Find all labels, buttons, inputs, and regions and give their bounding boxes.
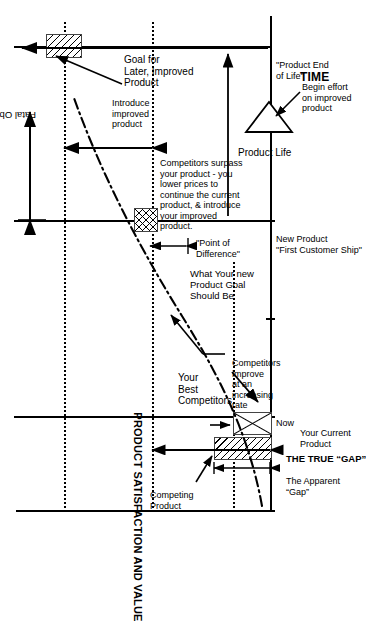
leader-begin-effort xyxy=(276,92,300,116)
leader-competitors-improve xyxy=(171,315,203,354)
label-competing-product: Competing Product xyxy=(150,490,194,511)
label-goal-for-later-improved-product: Goal for Later, Improved Product xyxy=(124,54,193,89)
label-what-your-new-product-goal: What Your new Product Goal Should Be xyxy=(190,268,254,301)
label-the-true-gap: THE TRUE “GAP” xyxy=(286,454,366,465)
label-competitors-surpass: Competitors surpass your product - you l… xyxy=(160,158,243,232)
label-fatal-obsolescence-gap: Fatal Obsolescence Gap xyxy=(0,110,36,121)
leader-competing-product xyxy=(196,456,212,482)
label-your-best-competitors: Your Best Competitors xyxy=(178,372,232,407)
label-product-life: Product Life xyxy=(238,148,291,159)
label-introduce-improved-product: Introduce improved product xyxy=(112,98,150,130)
label-point-of-difference: "Point of Difference" xyxy=(196,238,240,259)
label-competitors-improve: Competitors improve at an increasing rat… xyxy=(232,358,281,411)
label-begin-effort: Begin effort on improved product xyxy=(302,82,352,114)
label-the-apparent-gap: The Apparent “Gap” xyxy=(286,476,340,497)
leader-introduce-improved-product xyxy=(56,56,122,84)
label-your-current-product: Your Current Product xyxy=(300,428,351,449)
